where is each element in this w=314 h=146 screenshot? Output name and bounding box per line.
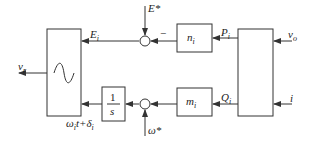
- top-summing-junction: [140, 36, 150, 46]
- Pi-label: Pi: [221, 27, 230, 41]
- Ei-label: Ei: [90, 29, 99, 43]
- omega-star-label: ω*: [148, 125, 161, 136]
- i-label: i: [290, 93, 293, 104]
- droop-control-diagram: E* − Ei Pi Qi vo i vr ni mi 1 s ω* ωit+δ…: [0, 0, 314, 146]
- E-star-label: E*: [148, 3, 160, 14]
- sine-wave-icon: [54, 63, 74, 83]
- m-block-label: mi: [186, 96, 196, 110]
- integrator-denominator: s: [110, 106, 114, 117]
- vr-label: vr: [18, 61, 26, 75]
- power-calculation-block: [238, 29, 273, 116]
- minus-sign: −: [160, 28, 166, 39]
- phase-label: ωit+δi: [66, 118, 94, 132]
- n-block-label: ni: [187, 32, 195, 46]
- bottom-summing-junction: [140, 99, 150, 109]
- integrator-numerator: 1: [110, 92, 116, 103]
- Qi-label: Qi: [221, 92, 231, 106]
- vo-label: vo: [288, 29, 297, 43]
